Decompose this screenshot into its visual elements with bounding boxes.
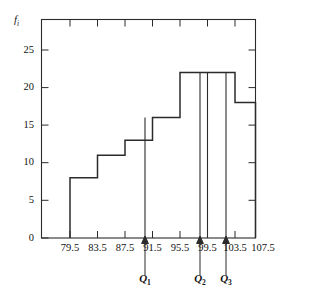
right-axis-ticks xyxy=(249,50,256,200)
quartile-label-q1: Q1 xyxy=(131,272,159,287)
quartile-label-q1-sub: 1 xyxy=(147,278,151,287)
quartile-label-q3-sub: 3 xyxy=(228,278,232,287)
histogram-outline xyxy=(70,73,256,239)
y-axis-ticks xyxy=(42,50,49,238)
histogram-figure: fi 25 20 15 10 5 0 79.5 83.5 87.5 91.5 9… xyxy=(0,0,318,294)
y-axis-title-sub: i xyxy=(17,19,19,28)
y-tick-label-10: 10 xyxy=(2,156,34,167)
y-tick-label-25: 25 xyxy=(2,44,34,55)
quartile-label-q1-text: Q xyxy=(139,272,147,284)
y-tick-label-0: 0 xyxy=(2,232,34,243)
y-tick-label-15: 15 xyxy=(2,119,34,130)
top-axis-ticks xyxy=(70,20,235,27)
axes-box xyxy=(42,20,256,239)
y-axis-title: fi xyxy=(14,13,19,28)
y-tick-label-5: 5 xyxy=(2,194,34,205)
quartile-lines xyxy=(145,73,226,239)
quartile-label-q3: Q3 xyxy=(212,272,240,287)
quartile-label-q2: Q2 xyxy=(186,272,214,287)
y-tick-label-20: 20 xyxy=(2,81,34,92)
quartile-label-q2-sub: 2 xyxy=(202,278,206,287)
quartile-label-q2-text: Q xyxy=(194,272,202,284)
plot-frame xyxy=(42,20,256,239)
quartile-label-q3-text: Q xyxy=(220,272,228,284)
x-tick-label-107-5: 107.5 xyxy=(244,242,282,253)
x-axis-ticks xyxy=(70,231,256,238)
histogram-bars xyxy=(70,73,256,239)
